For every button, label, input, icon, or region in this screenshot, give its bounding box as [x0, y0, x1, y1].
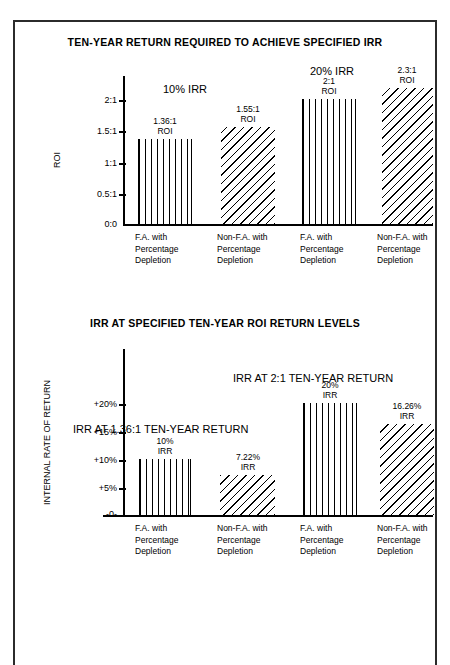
category-label-top-2: Non-F.A. with Percentage Depletion — [217, 232, 268, 267]
y-tick-label-20pct: +20% — [61, 400, 117, 409]
bar-label-bottom-3-line2: IRR — [300, 390, 360, 400]
y-tick-label-1-5-1: 1.5:1 — [65, 127, 117, 136]
category-label-top-3-line2: Percentage — [300, 244, 343, 256]
category-label-top-1-line3: Depletion — [135, 255, 178, 267]
y-tick-label-0-5-1: 0.5:1 — [65, 190, 117, 199]
bar-label-bottom-2-line2: IRR — [218, 462, 278, 472]
category-label-top-1-line1: F.A. with — [135, 232, 178, 244]
y-tick-5pct — [119, 488, 126, 490]
bar-label-top-2-line2: ROI — [218, 114, 278, 124]
bar-label-top-3-line2: ROI — [299, 86, 359, 96]
category-label-top-4-line1: Non-F.A. with — [377, 232, 428, 244]
category-label-top-1: F.A. with Percentage Depletion — [135, 232, 178, 267]
category-label-bottom-3-line3: Depletion — [300, 546, 343, 558]
chart-title-top: TEN-YEAR RETURN REQUIRED TO ACHIEVE SPEC… — [15, 36, 435, 48]
category-label-bottom-4: Non-F.A. with Percentage Depletion — [377, 523, 428, 558]
bar-label-top-4-line2: ROI — [378, 75, 436, 85]
bar-label-bottom-1-line1: 10% — [135, 436, 195, 446]
bar-label-top-2-line1: 1.55:1 — [218, 104, 278, 114]
y-tick-label-10pct: +10% — [61, 456, 117, 465]
y-tick-label-1-1: 1:1 — [65, 159, 117, 168]
bar-label-top-4-line1: 2.3:1 — [378, 65, 436, 75]
bar-label-bottom-1: 10% IRR — [135, 436, 195, 456]
category-label-bottom-1: F.A. with Percentage Depletion — [135, 523, 178, 558]
category-label-bottom-4-line1: Non-F.A. with — [377, 523, 428, 535]
y-tick-1-1 — [119, 163, 126, 165]
x-axis-bottom — [103, 515, 433, 517]
y-axis-top — [123, 76, 125, 226]
category-label-bottom-2-line2: Percentage — [217, 535, 268, 547]
bar-top-2 — [221, 127, 275, 224]
bar-label-top-4: 2.3:1 ROI — [378, 65, 436, 85]
page-frame: TEN-YEAR RETURN REQUIRED TO ACHIEVE SPEC… — [13, 20, 437, 665]
bar-label-top-1-line1: 1.36:1 — [135, 116, 195, 126]
y-axis-title-top: ROI — [53, 152, 62, 168]
bar-label-bottom-3: 20% IRR — [300, 380, 360, 400]
category-label-bottom-2-line3: Depletion — [217, 546, 268, 558]
bar-bottom-2 — [220, 475, 275, 515]
category-label-bottom-2-line1: Non-F.A. with — [217, 523, 268, 535]
bar-label-bottom-4-line2: IRR — [377, 411, 437, 421]
bar-label-top-1-line2: ROI — [135, 126, 195, 136]
bar-bottom-3 — [303, 403, 357, 515]
category-label-top-2-line2: Percentage — [217, 244, 268, 256]
category-label-top-3-line3: Depletion — [300, 255, 343, 267]
x-axis-top — [123, 224, 433, 226]
bar-top-1 — [138, 139, 192, 224]
category-label-top-4-line2: Percentage — [377, 244, 428, 256]
bar-label-bottom-1-line2: IRR — [135, 446, 195, 456]
y-tick-2-1 — [119, 100, 126, 102]
bar-label-top-2: 1.55:1 ROI — [218, 104, 278, 124]
category-label-bottom-4-line3: Depletion — [377, 546, 428, 558]
chart-ten-year-return: TEN-YEAR RETURN REQUIRED TO ACHIEVE SPEC… — [15, 36, 435, 296]
bar-bottom-1 — [139, 459, 191, 515]
category-label-bottom-1-line1: F.A. with — [135, 523, 178, 535]
y-tick-1-5-1 — [119, 131, 126, 133]
category-label-top-4: Non-F.A. with Percentage Depletion — [377, 232, 428, 267]
y-tick-label-0: -0- — [61, 510, 117, 519]
bar-label-top-3: 2:1 ROI — [299, 76, 359, 96]
bar-label-bottom-4-line1: 16.26% — [377, 401, 437, 411]
bar-label-bottom-3-line1: 20% — [300, 380, 360, 390]
bar-bottom-4 — [380, 424, 434, 515]
category-label-bottom-1-line3: Depletion — [135, 546, 178, 558]
y-tick-label-2-1: 2:1 — [65, 96, 117, 105]
category-label-top-3-line1: F.A. with — [300, 232, 343, 244]
bar-label-bottom-2: 7.22% IRR — [218, 452, 278, 472]
category-label-top-1-line2: Percentage — [135, 244, 178, 256]
chart-irr-levels: IRR AT SPECIFIED TEN-YEAR ROI RETURN LEV… — [15, 317, 435, 587]
y-tick-label-5pct: +5% — [61, 484, 117, 493]
bar-label-top-1: 1.36:1 ROI — [135, 116, 195, 136]
category-label-bottom-1-line2: Percentage — [135, 535, 178, 547]
y-tick-label-0-0: 0:0 — [65, 220, 117, 229]
category-label-top-2-line3: Depletion — [217, 255, 268, 267]
y-tick-10pct — [119, 460, 126, 462]
category-label-top-3: F.A. with Percentage Depletion — [300, 232, 343, 267]
y-tick-0-5-1 — [119, 194, 126, 196]
category-label-bottom-2: Non-F.A. with Percentage Depletion — [217, 523, 268, 558]
annotation-10-percent-irr: 10% IRR — [163, 83, 207, 95]
category-label-top-2-line1: Non-F.A. with — [217, 232, 268, 244]
bar-label-top-3-line1: 2:1 — [299, 76, 359, 86]
category-label-top-4-line3: Depletion — [377, 255, 428, 267]
category-label-bottom-3-line2: Percentage — [300, 535, 343, 547]
bar-top-3 — [302, 99, 356, 224]
bar-label-bottom-2-line1: 7.22% — [218, 452, 278, 462]
category-label-bottom-3: F.A. with Percentage Depletion — [300, 523, 343, 558]
bar-label-bottom-4: 16.26% IRR — [377, 401, 437, 421]
y-axis-title-bottom: INTERNAL RATE OF RETURN — [43, 380, 52, 505]
category-label-bottom-3-line1: F.A. with — [300, 523, 343, 535]
annotation-irr-1-36-return: IRR AT 1.36:1 TEN-YEAR RETURN — [73, 423, 248, 435]
bar-top-4 — [382, 88, 433, 224]
y-tick-20pct — [119, 404, 126, 406]
category-label-bottom-4-line2: Percentage — [377, 535, 428, 547]
chart-title-bottom: IRR AT SPECIFIED TEN-YEAR ROI RETURN LEV… — [15, 317, 435, 329]
